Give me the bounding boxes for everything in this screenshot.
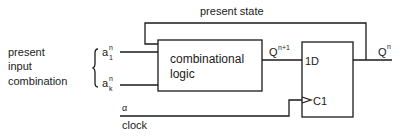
left-label-line3: combination: [8, 75, 67, 87]
left-label-line1: present: [8, 46, 45, 58]
clock-edge-triangle-icon: [302, 97, 311, 103]
svg-text:n: n: [109, 75, 113, 82]
svg-text:a: a: [102, 46, 109, 58]
sequential-circuit-diagram: present state present input combination …: [0, 0, 405, 136]
svg-text:Q: Q: [269, 46, 278, 58]
svg-text:k: k: [109, 85, 113, 92]
svg-text:1: 1: [109, 54, 113, 61]
svg-text:n: n: [387, 43, 391, 50]
svg-text:n+1: n+1: [278, 44, 290, 51]
clock-symbol: α: [122, 103, 127, 113]
clock-label: clock: [122, 119, 148, 131]
input-ak: a n k: [102, 75, 113, 92]
svg-text:Q: Q: [378, 46, 387, 58]
svg-text:a: a: [102, 77, 109, 89]
d-flipflop-block: [302, 42, 353, 117]
output-label: Q n: [378, 43, 391, 58]
svg-text:n: n: [109, 44, 113, 51]
combinational-label-line1: combinational: [170, 52, 244, 66]
clock-input-label: C1: [313, 95, 327, 107]
next-state-label: Q n+1: [269, 44, 290, 58]
input-brace: [93, 49, 98, 87]
present-state-label: present state: [200, 5, 264, 17]
input-a1: a n 1: [102, 44, 113, 61]
clock-line: [120, 100, 302, 116]
d-input-label: 1D: [305, 55, 319, 67]
left-label-line2: input: [8, 60, 32, 72]
combinational-label-line2: logic: [170, 67, 195, 81]
